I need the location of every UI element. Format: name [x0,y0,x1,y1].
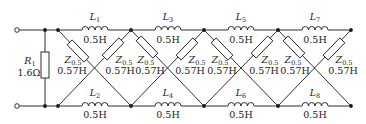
inductor-L4-label: L4 [161,88,175,101]
inductor-coil-L6 [228,103,254,107]
input-terminal-top [15,28,20,33]
inductor-L2-value: 0.5H [82,110,108,120]
inductor-coil-L8 [302,103,328,107]
inductor-L6-label: L6 [234,88,248,101]
inductor-L3-value: 0.5H [155,35,181,45]
inductor-L7-label: L7 [308,12,322,25]
inductor-L7-value: 0.5H [302,35,328,45]
inductor-coil-L5 [228,27,254,30]
impedance-Z6-value: 0.57H [249,66,279,76]
impedance-Z5-value: 0.57H [207,66,237,76]
inductor-L8-label: L8 [308,88,322,101]
inductor-coil-L1 [82,27,108,30]
impedance-Z1-value: 0.57H [57,66,87,76]
inductor-L2-label: L2 [88,88,102,101]
inductor-coil-L2 [82,103,108,107]
inductor-L5-label: L5 [234,12,248,25]
inductor-coil-L7 [302,27,328,30]
impedance-Z8-value: 0.57H [328,66,358,76]
input-terminal-bottom [15,104,20,109]
inductor-L6-value: 0.5H [228,110,254,120]
impedance-Z4-value: 0.57H [175,66,205,76]
inductor-L8-value: 0.5H [302,110,328,120]
inductor-L1-label: L1 [88,12,102,25]
inductor-coil-L3 [155,27,181,30]
inductor-L4-value: 0.5H [155,110,181,120]
inductor-L1-value: 0.5H [82,35,108,45]
resistor-R1-value: 1.6Ω [15,68,43,78]
impedance-Z2-value: 0.57H [105,66,135,76]
inductor-coil-L4 [155,103,181,107]
impedance-Z7-value: 0.57H [280,66,310,76]
inductor-L5-value: 0.5H [228,35,254,45]
impedance-Z3-value: 0.57H [135,66,165,76]
inductor-L3-label: L3 [161,12,175,25]
